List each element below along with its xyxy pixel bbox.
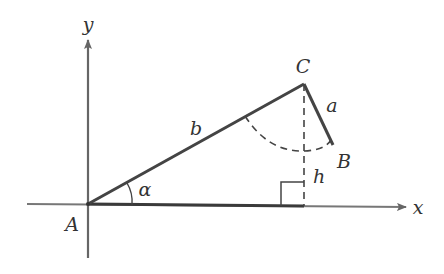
altitude-h-label: h bbox=[313, 167, 325, 186]
side-b bbox=[88, 84, 304, 204]
vertex-b-label: B bbox=[337, 152, 351, 171]
angle-alpha-label: α bbox=[139, 180, 152, 199]
angle-alpha-arc bbox=[127, 183, 132, 205]
x-axis-label: x bbox=[413, 198, 424, 217]
side-a-label: a bbox=[326, 96, 337, 115]
vertex-c-label: C bbox=[296, 57, 311, 76]
y-axis-label: y bbox=[83, 15, 94, 34]
vertex-a-label: A bbox=[65, 215, 79, 234]
side-b-label: b bbox=[190, 119, 202, 138]
side-c bbox=[88, 204, 304, 206]
right-angle-marker bbox=[281, 182, 304, 206]
swing-arc bbox=[245, 116, 331, 151]
vertex-a-point bbox=[86, 202, 90, 206]
diagram-canvas: y x A B C a b h α bbox=[0, 0, 444, 274]
